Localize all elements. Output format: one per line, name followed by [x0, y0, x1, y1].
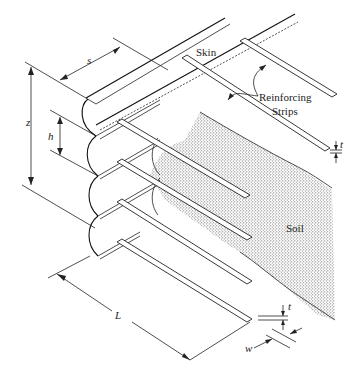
label-skin: Skin [196, 46, 217, 58]
dimension-L [48, 256, 250, 360]
label-w: w [245, 342, 253, 354]
reinforced-earth-diagram: s z h L t [0, 0, 359, 379]
soil-mass [150, 112, 335, 320]
label-s: s [87, 54, 91, 66]
label-L: L [114, 309, 121, 321]
dimension-z [22, 67, 95, 228]
dimension-s [25, 38, 168, 104]
dimension-w [254, 328, 302, 348]
label-soil: Soil [286, 222, 304, 234]
label-reinforcing: Reinforcing [259, 91, 312, 103]
label-strips: Strips [272, 105, 298, 117]
label-z: z [25, 116, 31, 128]
dimension-t-lower [258, 305, 288, 330]
label-t-upper: t [340, 138, 344, 150]
label-t-lower: t [288, 300, 292, 312]
label-h: h [48, 130, 54, 142]
dimension-h [50, 110, 98, 176]
